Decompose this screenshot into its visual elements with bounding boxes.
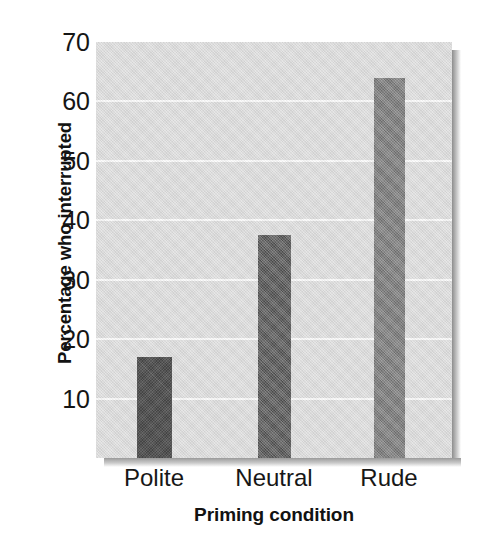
x-axis-title: Priming condition [96,504,452,526]
y-tick-label: 50 [44,148,90,173]
y-axis-tick-labels: 10203040506070 [44,42,90,458]
x-tick-label-rude: Rude [360,464,417,492]
y-tick-label: 20 [44,327,90,352]
y-tick-label: 40 [44,208,90,233]
y-tick-label: 70 [44,30,90,55]
bar-polite [137,357,172,458]
y-tick-label: 60 [44,89,90,114]
panel-shadow-right [452,50,461,466]
x-tick-label-polite: Polite [124,464,184,492]
y-tick-label: 30 [44,267,90,292]
bar-rude [374,78,405,458]
x-axis-tick-labels: PoliteNeutralRude [96,464,452,496]
bar-chart-figure: Percentage who interrupted 1020304050607… [0,0,487,545]
x-tick-label-neutral: Neutral [235,464,312,492]
y-tick-label: 10 [44,386,90,411]
bar-neutral [258,235,291,458]
plot-area [96,42,452,458]
